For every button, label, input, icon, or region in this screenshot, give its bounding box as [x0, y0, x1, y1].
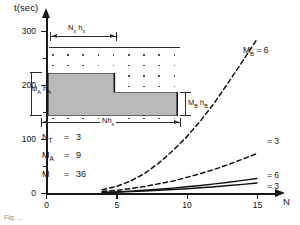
lattice-dot	[174, 75, 176, 77]
parameter-name-m: M	[42, 167, 64, 185]
x-tick-10	[187, 193, 188, 199]
curve-label-3a-eq: = 3	[267, 136, 279, 146]
x-tick-5	[116, 193, 117, 199]
top-dim-bar	[50, 36, 117, 37]
parameter-name-ma-sub: A	[50, 155, 54, 162]
y-tick-label-0: 0	[10, 188, 36, 198]
lattice-dot	[143, 86, 145, 88]
lattice-dot	[52, 118, 54, 120]
curve-label-6: = 6	[267, 170, 279, 180]
lattice-dot	[174, 65, 176, 67]
curve-label-6-eq: = 6	[267, 170, 279, 180]
lattice-dot	[143, 65, 145, 67]
curve-4	[102, 183, 257, 193]
lattice-dot	[52, 54, 54, 56]
lattice-dot	[158, 75, 160, 77]
lattice-dot	[174, 54, 176, 56]
lattice-dot	[113, 54, 115, 56]
x-tick-label-5: 5	[107, 200, 127, 210]
inset-bottom-label-sub: x	[112, 121, 115, 127]
inset-bottom-label-nh: Nh	[102, 116, 112, 125]
top-dim-arrow-right-icon	[110, 34, 115, 38]
lattice-dot	[67, 65, 69, 67]
lattice-dot	[128, 65, 130, 67]
lattice-dot	[113, 65, 115, 67]
curve-label-mb6-eq: = 6	[256, 45, 268, 55]
parameter-name-ma: MA	[42, 148, 64, 166]
lattice-dot	[82, 118, 84, 120]
figure-container: t(sec) N 0 100 200 300 0 5 10 15 Nx hx	[0, 0, 300, 225]
x-axis-line	[46, 193, 278, 195]
lattice-dot	[98, 54, 100, 56]
parameter-name-m-main: M	[42, 169, 50, 179]
parameter-name-ma-main: M	[42, 150, 50, 160]
top-dim-arrow-left-icon	[52, 34, 57, 38]
inset-top-label-n-sub: x	[73, 28, 76, 34]
inset-diagram: Nx hx MA hA MB hB Nhx	[44, 30, 184, 125]
curve-label-3b: = 3	[267, 181, 279, 191]
shaded-step-region	[47, 73, 178, 116]
y-axis-arrow-icon	[42, 8, 50, 18]
curve-2	[102, 154, 257, 192]
curve-label-mb6-sub: B	[250, 51, 254, 57]
parameter-value-ma: 9	[76, 150, 81, 160]
lattice-dot	[174, 86, 176, 88]
lattice-dot	[82, 54, 84, 56]
lattice-dot	[143, 118, 145, 120]
parameter-row-ma: MA=9	[42, 148, 86, 166]
bottom-dim-arrow-right-icon	[174, 120, 179, 124]
inset-bottom-label: Nhx	[100, 116, 116, 127]
inset-left-label-h-sub: A	[47, 89, 51, 95]
lattice-dot	[128, 54, 130, 56]
inset-left-label-m-sub: A	[37, 89, 41, 95]
lattice-dot	[128, 118, 130, 120]
lattice-dot	[143, 75, 145, 77]
x-axis-label: N	[283, 196, 290, 207]
inset-right-label: MB hB	[188, 98, 208, 109]
right-dim-bar	[185, 92, 186, 116]
parameter-row-m: M=36	[42, 167, 86, 185]
lattice-dot	[128, 86, 130, 88]
lattice-dot	[67, 54, 69, 56]
x-tick-15	[257, 193, 258, 199]
y-tick-label-300: 300	[10, 26, 36, 36]
x-tick-label-15: 15	[247, 200, 267, 210]
inset-right-label-m-sub: B	[194, 103, 198, 109]
lattice-dot	[158, 118, 160, 120]
y-tick-label-100: 100	[10, 134, 36, 144]
parameter-value-m: 36	[76, 169, 86, 179]
lattice-dot	[158, 86, 160, 88]
parameter-eq-m: =	[64, 167, 76, 183]
lattice-dot	[174, 118, 176, 120]
curve-label-3a: = 3	[267, 136, 279, 146]
curve-3	[102, 178, 257, 192]
parameter-row-nt: NT=3	[42, 130, 86, 148]
x-tick-label-10: 10	[177, 200, 197, 210]
inset-top-label: Nx hx	[68, 23, 85, 34]
inset-right-label-h-sub: B	[204, 103, 208, 109]
lattice-dot	[98, 118, 100, 120]
curve-label-mb6: MB = 6	[243, 45, 269, 57]
lattice-dot	[158, 65, 160, 67]
lattice-dot	[158, 54, 160, 56]
bottom-dim-arrow-left-icon	[43, 120, 48, 124]
lattice-dot	[82, 65, 84, 67]
inset-top-rule	[49, 47, 180, 48]
lattice-dot	[143, 54, 145, 56]
lattice-dot	[128, 75, 130, 77]
curve-label-3b-eq: = 3	[267, 181, 279, 191]
parameter-value-nt: 3	[76, 132, 81, 142]
figure-caption: Fig. ...	[4, 214, 298, 221]
parameter-eq-ma: =	[64, 148, 76, 164]
lattice-dot	[52, 65, 54, 67]
parameter-name-nt-sub: T	[49, 137, 53, 144]
x-tick-0	[46, 193, 47, 199]
x-tick-label-0: 0	[37, 200, 57, 210]
lattice-dot	[67, 118, 69, 120]
inset-top-label-h-sub: x	[82, 28, 85, 34]
parameter-list: NT=3 MA=9 M=36	[42, 130, 86, 185]
parameter-eq-nt: =	[64, 130, 76, 146]
lattice-dot	[98, 65, 100, 67]
parameter-name-nt: NT	[42, 130, 64, 148]
inset-left-label: MA hA	[31, 84, 51, 95]
